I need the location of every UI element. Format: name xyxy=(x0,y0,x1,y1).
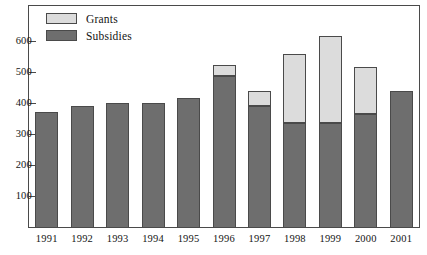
bar-chart: 100200300400500600 199119921993199419951… xyxy=(0,0,427,255)
bar-segment-grants xyxy=(283,54,306,122)
bar-segment-grants xyxy=(354,67,377,114)
x-axis-tick-label: 1993 xyxy=(101,233,135,244)
x-axis-tick-label: 1995 xyxy=(172,233,206,244)
x-axis-tick-label: 2001 xyxy=(384,233,418,244)
x-axis-tick-label: 1992 xyxy=(65,233,99,244)
bar-segment-subsidies xyxy=(106,103,129,228)
x-axis-tick-label: 1998 xyxy=(278,233,312,244)
bar-group-1999 xyxy=(319,36,342,229)
bar-segment-subsidies xyxy=(283,123,306,228)
bar-group-1992 xyxy=(71,106,94,228)
bar-segment-subsidies xyxy=(390,91,413,228)
legend-item-grants: Grants xyxy=(46,11,132,26)
x-axis-tick-label: 1994 xyxy=(136,233,170,244)
bar-group-1995 xyxy=(177,98,200,228)
x-axis-tick-label: 1999 xyxy=(313,233,347,244)
bar-group-1997 xyxy=(248,91,271,228)
bar-group-2001 xyxy=(390,91,413,228)
bar-segment-grants xyxy=(213,65,236,76)
bar-segment-subsidies xyxy=(177,98,200,228)
bar-segment-subsidies xyxy=(213,76,236,228)
legend-label-subsidies: Subsidies xyxy=(86,30,132,42)
bar-group-1998 xyxy=(283,54,306,228)
legend-swatch-grants xyxy=(46,13,77,24)
legend-item-subsidies: Subsidies xyxy=(46,28,132,43)
bar-segment-subsidies xyxy=(248,106,271,228)
chart-legend: Grants Subsidies xyxy=(46,11,132,45)
bar-group-1996 xyxy=(213,65,236,228)
legend-label-grants: Grants xyxy=(86,13,118,25)
bar-group-2000 xyxy=(354,67,377,228)
bar-segment-subsidies xyxy=(142,103,165,228)
x-axis-tick-label: 1991 xyxy=(30,233,64,244)
bar-segment-subsidies xyxy=(319,123,342,228)
bar-segment-grants xyxy=(319,36,342,123)
bar-segment-subsidies xyxy=(71,106,94,228)
legend-swatch-subsidies xyxy=(46,30,77,41)
bar-segment-subsidies xyxy=(354,114,377,228)
bar-segment-grants xyxy=(248,91,271,106)
x-axis-tick-label: 2000 xyxy=(349,233,383,244)
bar-group-1993 xyxy=(106,103,129,228)
bar-group-1991 xyxy=(35,112,58,228)
bar-segment-subsidies xyxy=(35,112,58,228)
x-axis-tick-label: 1996 xyxy=(207,233,241,244)
x-axis-tick-label: 1997 xyxy=(242,233,276,244)
bar-group-1994 xyxy=(142,103,165,228)
